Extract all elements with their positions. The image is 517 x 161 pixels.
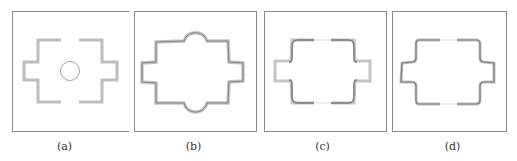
outline-right-light	[457, 40, 494, 104]
outline-left-light	[401, 40, 440, 104]
outline-right-light	[331, 40, 370, 103]
bracket-top-left	[24, 40, 61, 72]
outline-left-light	[275, 40, 314, 103]
panel-b-drawing	[129, 0, 258, 161]
panel-c: (c)	[258, 0, 387, 161]
frame-box	[13, 12, 130, 132]
panel-a-drawing	[0, 0, 129, 161]
panel-d-drawing	[388, 0, 517, 161]
panel-label-b: (b)	[129, 140, 258, 153]
outline-right-dark	[457, 40, 494, 104]
panel-label-a: (a)	[0, 140, 129, 153]
bracket-bottom-left	[24, 72, 61, 102]
panel-b: (b)	[129, 0, 258, 161]
frame-box	[265, 12, 387, 132]
bracket-top-right	[79, 40, 117, 72]
panel-c-drawing	[258, 0, 387, 161]
frame-box	[393, 12, 507, 132]
center-circle	[61, 62, 80, 81]
panel-label-d: (d)	[388, 140, 517, 153]
panel-a: (a)	[0, 0, 129, 161]
panel-label-c: (c)	[258, 140, 387, 153]
bracket-bottom-right	[79, 72, 117, 102]
panel-d: (d)	[388, 0, 517, 161]
outline-left-dark	[401, 40, 440, 104]
